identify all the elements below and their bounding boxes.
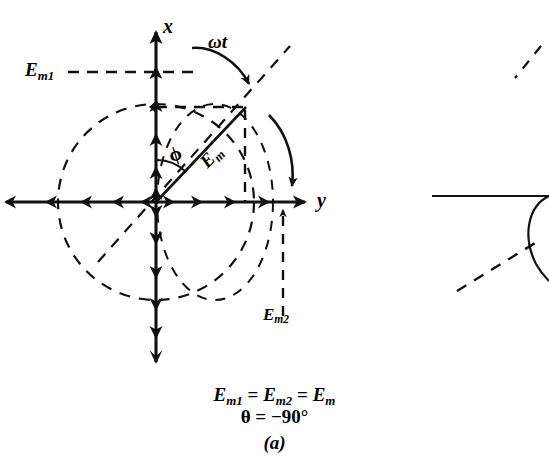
em2-label: Em2 — [263, 306, 289, 326]
caption-equality: Em1 = Em2 = Em — [0, 384, 549, 409]
caption-em: Em — [313, 384, 336, 405]
em1-label: Em1 — [25, 60, 54, 83]
rotation-arrow-right — [269, 115, 293, 186]
y-axis-label: y — [317, 190, 326, 210]
caption-em1: Em1 — [214, 384, 243, 405]
caption-theta: θ = −90° — [0, 406, 549, 428]
omega-t-label: ωt — [208, 32, 227, 51]
panel-label: (a) — [0, 432, 549, 454]
partial-neighbour-figure — [432, 46, 549, 291]
caption-em2: Em2 — [263, 384, 292, 405]
phasor-figure: x y Em1 Em2 Em ωt ϕ Em1 = Em2 = Em θ = −… — [0, 0, 549, 456]
caption-eq1: = — [248, 384, 264, 405]
x-axis-label: x — [163, 16, 173, 36]
caption-eq2: = — [297, 384, 313, 405]
rotation-arrow-top — [192, 48, 249, 84]
rotating-axis-dashed — [98, 46, 290, 262]
